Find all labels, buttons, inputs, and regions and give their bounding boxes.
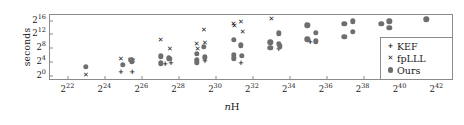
x-tick-label-text-exponent: 22: [66, 82, 74, 90]
data-point-fplll: ✕: [231, 23, 238, 30]
data-point-ours: [194, 60, 199, 65]
x-tick-label: 236: [319, 84, 333, 94]
data-point-ours: [268, 39, 273, 44]
legend-item-fplll[interactable]: ✕fpLLL: [385, 52, 448, 64]
data-point-fplll: ✕: [201, 39, 208, 46]
y-tick-label: 212: [32, 28, 46, 38]
y-tick-mark: [50, 34, 53, 35]
data-point-ours: [120, 62, 125, 67]
data-point-ours: [424, 17, 429, 22]
data-point-ours: [305, 23, 310, 28]
data-point-fplll: ✕: [237, 18, 244, 25]
x-tick-label-text: 226: [134, 84, 148, 94]
data-point-ours: [231, 37, 236, 42]
x-tick-label: 228: [171, 84, 185, 94]
y-tick-label-text: 216: [32, 15, 46, 25]
legend-item-ours[interactable]: Ours: [385, 64, 448, 76]
x-tick-label: 230: [208, 84, 222, 94]
x-tick-mark: [326, 76, 327, 79]
x-tick-label: 222: [61, 84, 75, 94]
data-point-ours: [238, 43, 243, 48]
x-tick-label-text-exponent: 34: [287, 82, 295, 90]
y-tick-mark: [50, 48, 53, 49]
x-tick-mark: [179, 76, 180, 79]
x-tick-label-text: 234: [282, 84, 296, 94]
x-tick-label-text-exponent: 32: [250, 82, 258, 90]
data-point-ours: [194, 57, 199, 62]
x-tick-label-text-exponent: 24: [103, 82, 111, 90]
data-point-kef: +: [129, 68, 136, 75]
x-tick-label: 240: [393, 84, 407, 94]
y-tick-label-text-exponent: 4: [42, 54, 46, 62]
y-tick-mark: [50, 75, 53, 76]
data-point-ours: [342, 21, 347, 26]
y-tick-label: 20: [36, 70, 46, 80]
x-tick-mark: [252, 76, 253, 79]
x-tick-label-text: 228: [171, 84, 185, 94]
x-tick-label-text-exponent: 26: [140, 82, 148, 90]
legend-label: Ours: [396, 65, 420, 76]
data-point-ours: [342, 34, 347, 39]
data-point-ours: [268, 45, 273, 50]
x-axis-label: nH: [0, 101, 464, 112]
x-tick-label: 226: [134, 84, 148, 94]
data-point-fplll: ✕: [130, 57, 137, 64]
scatter-chart-figure: seconds ++++++++✕✕✕✕✕✕✕✕✕✕✕✕✕✕✕ nH +KEF✕…: [0, 0, 464, 125]
y-tick-mark: [50, 20, 53, 21]
data-point-ours: [231, 56, 236, 61]
data-point-ours: [201, 44, 206, 49]
cross-icon: ✕: [388, 55, 394, 62]
data-point-ours: [387, 25, 392, 30]
x-axis-label-roman: H: [231, 101, 240, 112]
data-point-kef: +: [307, 38, 314, 45]
data-point-kef: +: [201, 58, 208, 65]
y-tick-label-text-exponent: 16: [38, 13, 46, 21]
legend-item-kef[interactable]: +KEF: [385, 40, 448, 52]
data-point-ours: [166, 56, 171, 61]
x-tick-label-text: 230: [208, 84, 222, 94]
legend-marker-cross-icon: ✕: [385, 55, 396, 62]
data-point-ours: [128, 57, 133, 62]
x-tick-label: 238: [356, 84, 370, 94]
x-tick-label: 224: [97, 84, 111, 94]
x-tick-label-text-exponent: 30: [214, 82, 222, 90]
x-tick-label-text: 242: [430, 84, 444, 94]
x-tick-label-text: 238: [356, 84, 370, 94]
x-tick-label-text-exponent: 28: [177, 82, 185, 90]
data-point-ours: [276, 41, 281, 46]
legend-marker-circle-icon: [385, 67, 396, 72]
x-tick-mark: [105, 76, 106, 79]
data-point-fplll: ✕: [230, 20, 237, 27]
x-tick-label-text-exponent: 36: [324, 82, 332, 90]
data-point-ours: [158, 60, 163, 65]
data-point-kef: +: [167, 60, 174, 67]
data-point-fplll: ✕: [193, 40, 200, 47]
y-tick-mark: [50, 61, 53, 62]
data-point-ours: [83, 64, 88, 69]
y-tick-label: 216: [32, 15, 46, 25]
x-tick-label-text: 236: [319, 84, 333, 94]
x-tick-label-text: 224: [97, 84, 111, 94]
data-point-ours: [350, 29, 355, 34]
data-point-ours: [158, 54, 163, 59]
x-tick-mark: [289, 76, 290, 79]
data-point-ours: [378, 21, 383, 26]
chart-legend: +KEF✕fpLLLOurs: [380, 37, 453, 80]
y-tick-label-text: 28: [36, 42, 46, 52]
data-point-ours: [231, 52, 236, 57]
data-point-ours: [387, 18, 392, 23]
data-point-fplll: ✕: [194, 46, 201, 53]
data-point-fplll: ✕: [127, 56, 134, 63]
x-tick-label-text: 240: [393, 84, 407, 94]
data-point-ours: [239, 53, 244, 58]
x-tick-label-text: 232: [245, 84, 259, 94]
y-tick-label: 28: [36, 42, 46, 52]
data-point-ours: [313, 30, 318, 35]
x-tick-label-text: 222: [61, 84, 75, 94]
y-tick-label-text: 212: [32, 28, 46, 38]
circle-icon: [388, 67, 393, 72]
data-point-fplll: ✕: [268, 15, 275, 22]
y-tick-label: 24: [36, 56, 46, 66]
x-tick-mark: [68, 76, 69, 79]
y-axis-label-text: seconds: [22, 28, 32, 67]
